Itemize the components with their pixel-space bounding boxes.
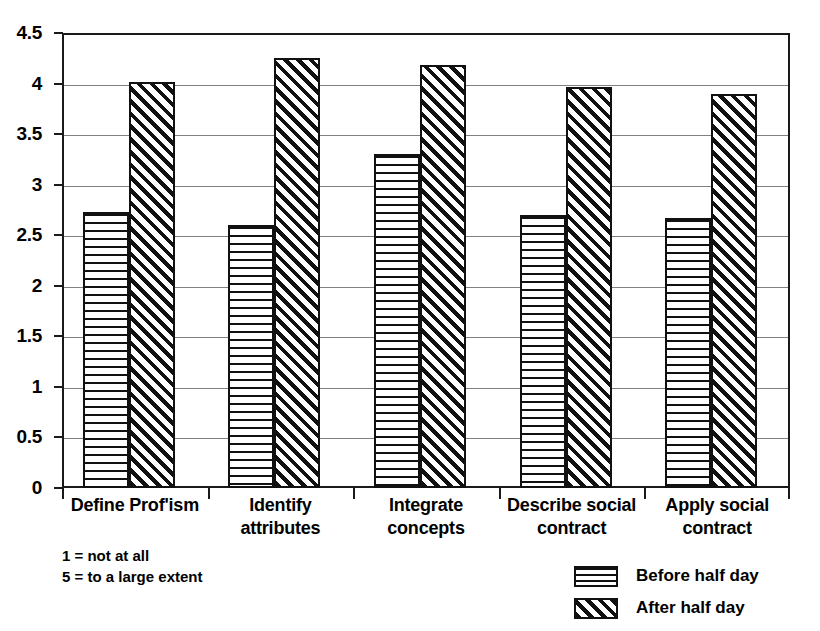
y-axis: 00.511.522.533.544.5 xyxy=(0,0,56,631)
legend-label-after: After half day xyxy=(636,598,745,618)
bar-after xyxy=(129,82,175,488)
y-tick-label: 3.5 xyxy=(16,123,42,145)
y-tick-label: 2 xyxy=(32,275,42,297)
y-tick-label: 2.5 xyxy=(16,224,42,246)
footnote-line-1: 1 = not at all xyxy=(62,545,202,566)
scale-legend-notes: 1 = not at all 5 = to a large extent xyxy=(62,545,202,587)
bar-after xyxy=(566,87,612,488)
y-tick-label: 1.5 xyxy=(16,325,42,347)
legend-item-after: After half day xyxy=(574,592,759,624)
legend-label-before: Before half day xyxy=(636,566,759,586)
bar-before xyxy=(228,225,274,488)
footnote-line-2: 5 = to a large extent xyxy=(62,566,202,587)
x-axis-category-label: Integrate concepts xyxy=(353,494,499,540)
bar-after xyxy=(420,65,466,488)
chart-legend: Before half day After half day xyxy=(574,560,759,624)
bar-before xyxy=(374,154,420,488)
bars-layer xyxy=(62,33,790,488)
x-axis-category-label: Define Prof'ism xyxy=(62,494,208,517)
y-tick-label: 4 xyxy=(32,73,42,95)
bar-after xyxy=(274,58,320,488)
bar-before xyxy=(665,218,711,488)
legend-swatch-after-icon xyxy=(574,598,618,619)
y-tick-label: 4.5 xyxy=(16,22,42,44)
x-axis-category-label: Apply social contract xyxy=(644,494,790,540)
legend-item-before: Before half day xyxy=(574,560,759,592)
bar-before xyxy=(520,215,566,488)
legend-swatch-before-icon xyxy=(574,566,618,587)
bar-before xyxy=(83,212,129,488)
y-tick-label: 0 xyxy=(32,477,42,499)
y-tick-label: 3 xyxy=(32,174,42,196)
y-tick-label: 0.5 xyxy=(16,426,42,448)
y-tick-label: 1 xyxy=(32,376,42,398)
x-axis-category-label: Identify attributes xyxy=(208,494,354,540)
bar-chart: 00.511.522.533.544.5 Define Prof'ismIden… xyxy=(0,0,820,631)
x-axis-category-label: Describe social contract xyxy=(499,494,645,540)
bar-after xyxy=(711,94,757,488)
